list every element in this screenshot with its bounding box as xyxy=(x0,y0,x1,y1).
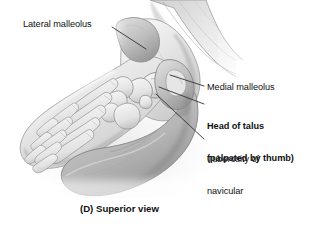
label-tuberosity-of-navicular: Tuberosity of navicular xyxy=(207,133,259,218)
figure-panel: Lateral malleolus Medial malleolus Head … xyxy=(0,0,317,231)
label-head-of-talus-line1: Head of talus xyxy=(207,121,294,132)
label-lateral-malleolus: Lateral malleolus xyxy=(23,19,92,30)
navicular-tuberosity-bone xyxy=(139,95,152,108)
label-tuberosity-line1: Tuberosity of xyxy=(207,154,259,165)
label-medial-malleolus: Medial malleolus xyxy=(207,82,275,93)
label-tuberosity-line2: navicular xyxy=(207,186,259,197)
figure-caption: (D) Superior view xyxy=(80,203,159,214)
cuboid-bone xyxy=(114,103,140,129)
